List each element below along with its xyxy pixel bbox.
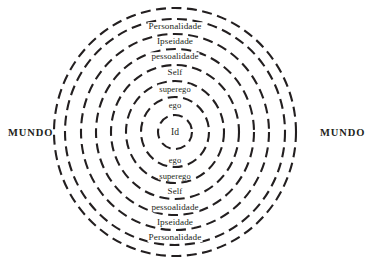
ring-label-bottom-self: Self [167, 187, 184, 196]
ring-label-center-id: Id [169, 127, 181, 137]
ring-label-bottom-ego: ego [168, 155, 183, 164]
ring-label-bottom-ipseidade: Ipseidade [156, 218, 194, 228]
ring-label-top-pessoalidade: pessoalidade [150, 52, 199, 61]
concentric-diagram: IdegoegosuperegosuperegoSelfSelfpessoali… [0, 0, 367, 264]
ring-label-bottom-personalidade: Personalidade [148, 233, 203, 243]
ring-label-top-superego: superego [158, 84, 191, 93]
side-label-right-mundo: MUNDO [320, 127, 365, 138]
ring-label-top-ego: ego [168, 100, 183, 109]
ring-label-bottom-superego: superego [158, 171, 191, 180]
ring-label-top-self: Self [167, 68, 184, 77]
ring-label-top-ipseidade: Ipseidade [156, 37, 194, 47]
ring-label-bottom-pessoalidade: pessoalidade [150, 203, 199, 212]
ring-label-top-personalidade: Personalidade [148, 22, 203, 32]
side-label-left-mundo: MUNDO [8, 127, 53, 138]
